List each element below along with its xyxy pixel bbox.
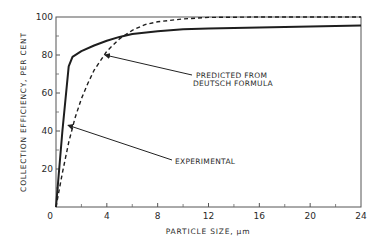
x-tick-label: 4 [104, 211, 110, 221]
y-tick-label: 60 [42, 88, 54, 98]
efficiency-chart: 0481216202420406080100 PARTICLE SIZE, μm… [0, 0, 387, 244]
x-tick-label: 16 [254, 211, 266, 221]
predicted-leader-arrow [105, 55, 192, 75]
annotations [68, 55, 192, 160]
annotation-predicted-line2: DEUTSCH FORMULA [193, 79, 274, 88]
series-predicted-line [56, 17, 361, 207]
y-tick-label: 20 [42, 164, 54, 174]
y-axis-title: COLLECTION EFFICIENCY, PER CENT [19, 32, 28, 192]
x-axis-title: PARTICLE SIZE, μm [166, 227, 250, 236]
x-tick-label: 8 [155, 211, 161, 221]
experimental-leader-arrow [68, 125, 172, 160]
y-tick-label: 80 [42, 50, 54, 60]
x-tick-label: 20 [304, 211, 316, 221]
y-tick-label: 40 [42, 126, 54, 136]
axis-ticks: 0481216202420406080100 [36, 12, 367, 221]
series-experimental-line [56, 26, 361, 207]
series-group [56, 17, 361, 207]
plot-frame [56, 17, 361, 207]
x-tick-label: 0 [47, 211, 53, 221]
x-tick-label: 24 [355, 211, 367, 221]
annotation-experimental: EXPERIMENTAL [175, 157, 236, 166]
y-tick-label: 100 [36, 12, 53, 22]
x-tick-label: 12 [203, 211, 214, 221]
plot-border [56, 17, 361, 207]
